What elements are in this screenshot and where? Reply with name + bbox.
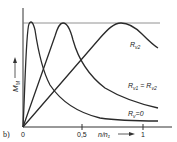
label-rv0: Rv=0 — [128, 110, 144, 119]
svg-text:MM: MM — [11, 80, 21, 92]
x-tick-label-0-5: 0,5 — [77, 131, 87, 138]
x-tick-label-1: 1 — [141, 131, 145, 138]
x-axis-label: n/n₁ — [98, 131, 111, 138]
torque-chart: MM 0 0,5 1 n/n₁ b) Rv2 Rv1 = Rv2 Rv=0 — [0, 0, 177, 142]
panel-label: b) — [3, 130, 10, 139]
y-axis-arrow-head — [13, 57, 17, 63]
x-axis-arrow-head — [129, 132, 135, 136]
label-rv2: Rv2 — [130, 41, 141, 50]
x-tick-label-0: 0 — [21, 131, 25, 138]
label-rv1-rv2: Rv1 = Rv2 — [128, 82, 157, 91]
y-axis-label: MM — [11, 80, 21, 92]
